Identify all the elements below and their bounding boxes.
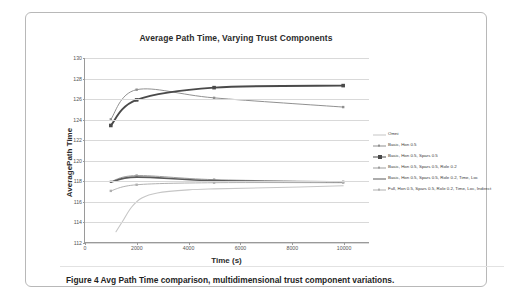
y-tick-label: 116 [74, 199, 82, 205]
y-tick-mark [83, 202, 85, 203]
y-tick-label: 128 [73, 76, 82, 82]
data-point-marker [110, 190, 112, 192]
y-tick-label: 112 [74, 240, 82, 246]
x-tick-label: 4000 [183, 245, 195, 251]
legend-marker-icon [378, 144, 381, 147]
x-tick-label: 10000 [337, 245, 351, 251]
legend-swatch-icon [373, 131, 386, 139]
legend-marker-icon [378, 155, 382, 159]
y-tick-mark [83, 99, 85, 100]
plot-area: 1121141161181201221241261281300200040006… [84, 58, 369, 243]
x-tick-label: 6000 [235, 245, 247, 251]
legend-label: Omni [388, 132, 399, 136]
legend-item-3[interactable]: Basic, Hon 0.5, Spars 0.5, Role 0.2 [373, 162, 508, 173]
y-tick-label: 122 [73, 137, 82, 143]
legend-label: Basic, Hon 0.5, Spars 0.5, Role 0.2, Tim… [388, 176, 478, 180]
x-tick-label: 0 [84, 245, 87, 251]
series-0 [116, 186, 343, 232]
grid-line [85, 222, 369, 223]
grid-line [85, 120, 369, 121]
grid-line [85, 243, 369, 244]
legend-item-5[interactable]: Full, Hon 0.5, Spars 0.5, Role 0.2, Time… [373, 184, 508, 195]
x-axis-title: Time (s) [84, 256, 369, 265]
chart-title: Average Path Time, Varying Trust Compone… [86, 33, 386, 43]
grid-line [85, 58, 369, 59]
data-point-marker [135, 88, 137, 90]
grid-line [85, 99, 369, 100]
series-line [116, 186, 343, 232]
y-tick-mark [83, 161, 85, 162]
grid-line [85, 140, 369, 141]
y-axis-title-wrap: AveragePath Time [52, 88, 66, 198]
legend-marker-icon [378, 166, 381, 169]
legend-item-0[interactable]: Omni [373, 129, 508, 140]
chart-legend: OmniBasic, Hon 0.5Basic, Hon 0.5, Spars … [373, 129, 508, 195]
data-point-marker [342, 106, 344, 108]
legend-swatch-icon [373, 186, 386, 194]
y-tick-label: 114 [74, 219, 82, 225]
y-tick-label: 126 [73, 96, 82, 102]
y-tick-label: 120 [73, 158, 82, 164]
y-tick-mark [83, 140, 85, 141]
y-axis-title: AveragePath Time [65, 103, 74, 223]
data-point-marker [212, 86, 216, 90]
legend-item-1[interactable]: Basic, Hon 0.5 [373, 140, 508, 151]
legend-label: Basic, Hon 0.5 [388, 143, 417, 147]
series-layer [85, 58, 369, 242]
series-2 [109, 84, 345, 127]
y-tick-mark [83, 79, 85, 80]
y-tick-mark [83, 120, 85, 121]
legend-item-4[interactable]: Basic, Hon 0.5, Spars 0.5, Role 0.2, Tim… [373, 173, 508, 184]
legend-label: Full, Hon 0.5, Spars 0.5, Role 0.2, Time… [388, 187, 491, 191]
y-tick-mark [83, 58, 85, 59]
x-tick-label: 2000 [131, 245, 143, 251]
legend-marker-icon [378, 188, 381, 191]
legend-swatch-icon [373, 153, 386, 161]
legend-swatch-icon [373, 164, 386, 172]
figure-caption: Figure 4 Avg Path Time comparison, multi… [66, 275, 486, 285]
grid-line [85, 79, 369, 80]
legend-swatch-icon [373, 142, 386, 150]
y-tick-label: 124 [73, 117, 82, 123]
grid-line [85, 202, 369, 203]
y-tick-label: 118 [74, 178, 82, 184]
legend-swatch-icon [373, 175, 386, 183]
grid-line [85, 181, 369, 182]
caption-divider [60, 266, 504, 267]
figure-frame: Average Path Time, Varying Trust Compone… [25, 12, 487, 287]
data-point-marker [341, 84, 345, 88]
legend-label: Basic, Hon 0.5, Spars 0.5, Role 0.2 [388, 165, 457, 169]
data-point-marker [109, 124, 113, 128]
x-tick-label: 8000 [286, 245, 298, 251]
grid-line [85, 161, 369, 162]
series-line [111, 89, 343, 119]
y-tick-mark [83, 222, 85, 223]
legend-label: Basic, Hon 0.5, Spars 0.5 [388, 154, 438, 158]
legend-item-2[interactable]: Basic, Hon 0.5, Spars 0.5 [373, 151, 508, 162]
y-tick-label: 130 [73, 55, 82, 61]
data-point-marker [135, 184, 137, 186]
y-tick-mark [83, 181, 85, 182]
series-1 [110, 88, 345, 120]
